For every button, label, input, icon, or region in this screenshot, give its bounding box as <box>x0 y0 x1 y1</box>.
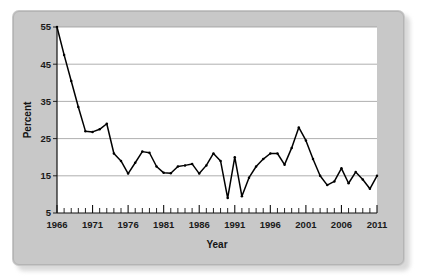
series-point-2007 <box>347 182 350 185</box>
series-point-1979 <box>148 151 151 154</box>
series-point-1968 <box>70 80 73 83</box>
x-tick-label-1991: 1991 <box>224 219 246 230</box>
series-point-1969 <box>77 106 80 109</box>
series-point-1980 <box>155 165 158 168</box>
series-point-1991 <box>234 156 237 159</box>
series-point-2009 <box>362 178 365 181</box>
series-point-2004 <box>326 184 329 187</box>
series-point-2008 <box>354 171 357 174</box>
y-axis-title: Percent <box>22 101 33 138</box>
series-point-1982 <box>170 172 173 175</box>
plot-area-wrapper: 51525354555 1966197119761981198619911996… <box>0 0 421 280</box>
series-point-1988 <box>212 152 215 155</box>
series-point-2003 <box>319 175 322 178</box>
series-point-1992 <box>241 195 244 198</box>
y-tick-label-25: 25 <box>40 133 51 144</box>
series-point-1984 <box>184 164 187 167</box>
y-tick-label-5: 5 <box>46 207 52 218</box>
x-tick-label-1976: 1976 <box>118 219 139 230</box>
series-point-1996 <box>269 152 272 155</box>
x-tick-label-2011: 2011 <box>367 219 388 230</box>
y-tick-label-55: 55 <box>40 21 51 32</box>
series-point-2005 <box>333 180 336 183</box>
series-point-1989 <box>219 160 222 163</box>
x-tick-label-1966: 1966 <box>46 219 67 230</box>
series-point-1993 <box>248 176 251 179</box>
x-tick-label-2006: 2006 <box>331 219 352 230</box>
figure-root: 51525354555 1966197119761981198619911996… <box>0 0 421 280</box>
series-point-1990 <box>226 197 229 200</box>
series-point-1994 <box>255 165 258 168</box>
x-tick-label-1971: 1971 <box>82 219 104 230</box>
series-point-1986 <box>198 172 201 175</box>
series-point-1997 <box>276 152 279 155</box>
series-point-2010 <box>369 188 372 191</box>
series-point-1985 <box>191 163 194 166</box>
series-point-1998 <box>283 163 286 166</box>
x-tick-label-1981: 1981 <box>153 219 175 230</box>
series-point-1995 <box>262 158 265 161</box>
series-point-1976 <box>127 172 130 175</box>
series-point-1974 <box>113 152 116 155</box>
y-axis-tick-labels: 51525354555 <box>40 21 57 218</box>
series-point-1966 <box>56 26 59 29</box>
plot-background <box>57 27 377 213</box>
x-tick-label-2001: 2001 <box>295 219 317 230</box>
series-point-1978 <box>141 150 144 153</box>
series-point-1970 <box>84 130 87 133</box>
series-point-2000 <box>298 126 301 129</box>
x-tick-label-1986: 1986 <box>189 219 210 230</box>
y-tick-label-35: 35 <box>40 96 51 107</box>
x-tick-label-1996: 1996 <box>260 219 281 230</box>
series-point-1987 <box>205 164 208 167</box>
x-axis-tick-labels: 1966197119761981198619911996200120062011 <box>46 219 388 230</box>
series-point-1973 <box>106 122 109 125</box>
series-point-1977 <box>134 162 137 165</box>
series-point-1981 <box>162 172 165 175</box>
series-point-1983 <box>177 165 180 168</box>
series-point-1971 <box>91 131 94 134</box>
series-point-2002 <box>312 158 315 161</box>
series-point-1967 <box>63 54 66 57</box>
x-axis-title: Year <box>206 239 227 250</box>
series-point-1975 <box>120 160 123 163</box>
series-point-1999 <box>290 147 293 150</box>
line-chart: 51525354555 1966197119761981198619911996… <box>0 0 421 280</box>
y-tick-label-15: 15 <box>40 170 51 181</box>
series-point-2006 <box>340 167 343 170</box>
series-point-2001 <box>305 139 308 142</box>
y-tick-label-45: 45 <box>40 59 51 70</box>
series-point-2011 <box>376 175 379 178</box>
series-point-1972 <box>98 128 101 131</box>
